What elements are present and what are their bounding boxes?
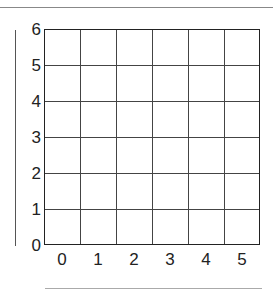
- x-tick-label: 0: [52, 251, 72, 268]
- y-tick-label: 2: [27, 165, 41, 182]
- bottom-rule: [45, 288, 262, 289]
- grid-line-h: [45, 137, 259, 138]
- x-tick-label: 1: [88, 251, 108, 268]
- x-tick-label: 4: [196, 251, 216, 268]
- y-tick-label: 4: [27, 93, 41, 110]
- x-tick-label: 2: [124, 251, 144, 268]
- grid-line-h: [45, 65, 259, 66]
- grid-line-h: [45, 173, 259, 174]
- y-tick-label: 6: [27, 21, 41, 38]
- x-tick-label: 5: [232, 251, 252, 268]
- top-rule: [0, 7, 273, 8]
- left-rule: [15, 30, 16, 246]
- grid-line-h: [45, 209, 259, 210]
- y-tick-label: 1: [27, 201, 41, 218]
- y-tick-label: 5: [27, 57, 41, 74]
- coordinate-grid: [44, 29, 260, 245]
- y-tick-label: 3: [27, 129, 41, 146]
- y-tick-label: 0: [27, 237, 41, 254]
- grid-line-h: [45, 101, 259, 102]
- x-tick-label: 3: [160, 251, 180, 268]
